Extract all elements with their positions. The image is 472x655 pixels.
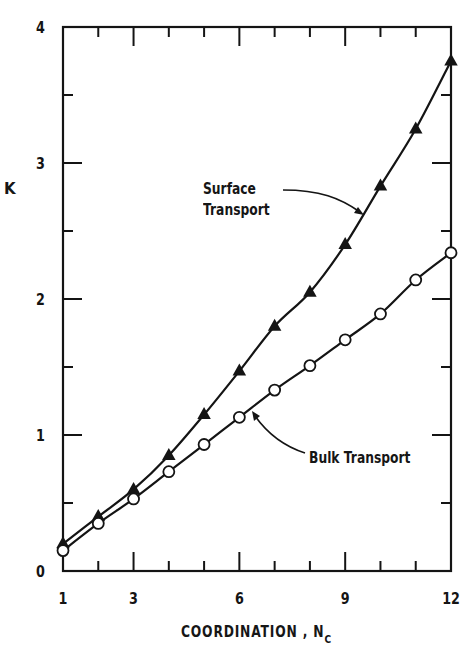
y-axis-label: K [4,180,16,198]
circle-marker [163,466,174,477]
circle-marker [234,412,245,423]
surface-arrow-line [283,190,360,212]
x-tick-label: 6 [235,590,244,607]
annotation-arrows [252,190,364,453]
circle-marker [410,274,421,285]
x-tick-label: 1 [59,590,68,607]
bulk-arrowhead-icon [252,411,260,421]
circle-marker [269,385,280,396]
circle-marker [58,545,69,556]
surface-transport-label-line1: Surface [203,180,256,198]
plot-border [63,27,451,571]
series-bulk-transport [58,247,457,556]
triangle-marker [444,54,458,66]
surface-transport-label-line2: Transport [203,201,270,219]
x-axis-label-subscript: C [324,633,331,646]
y-tick-label: 4 [36,19,45,36]
circle-marker [199,439,210,450]
x-tick-label: 9 [341,590,350,607]
circle-marker [340,334,351,345]
bulk-arrow-line [255,416,305,453]
bulk-transport-label: Bulk Transport [309,449,411,467]
circle-marker [93,518,104,529]
series-line [63,253,451,551]
x-tick-label: 12 [442,590,460,607]
triangle-marker [409,122,423,134]
y-tick-label: 2 [36,291,45,308]
chart-canvas: 13691201234 [0,0,472,655]
circle-marker [304,360,315,371]
circle-marker [446,247,457,258]
x-axis-title: COORDINATION , NC [181,623,332,641]
y-tick-label: 3 [36,155,45,172]
triangle-marker [127,482,141,494]
axis-ticks [63,27,451,571]
y-tick-label: 0 [36,563,45,580]
circle-marker [375,308,386,319]
circle-marker [128,493,139,504]
plot-frame [63,27,451,571]
x-tick-label: 3 [129,590,138,607]
x-axis-label: COORDINATION , N [181,623,324,641]
y-tick-label: 1 [36,427,45,444]
series-surface-transport [56,54,458,549]
